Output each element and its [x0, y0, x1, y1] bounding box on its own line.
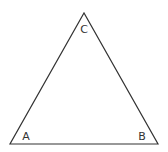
- vertex-label-a: A: [22, 130, 30, 143]
- triangle-diagram: C A B: [0, 0, 168, 152]
- vertex-label-c: C: [80, 23, 88, 36]
- vertex-label-b: B: [138, 130, 146, 143]
